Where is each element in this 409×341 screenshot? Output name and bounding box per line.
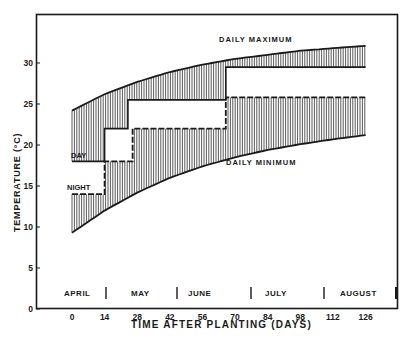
y-tick-label: 5: [28, 263, 33, 273]
y-axis-title: TEMPERATURE (°C): [12, 133, 22, 232]
y-tick-label: 30: [24, 58, 34, 68]
month-april: APRIL: [64, 289, 91, 298]
x-tick-label: 112: [326, 312, 340, 322]
annotation-night: NIGHT: [67, 183, 91, 192]
y-axis-ticks: 051015202530: [24, 58, 40, 314]
august-end-marker: [395, 287, 398, 299]
month-may: MAY: [131, 289, 150, 298]
x-axis-title: TIME AFTER PLANTING (DAYS): [131, 319, 312, 330]
x-tick-label: 0: [70, 312, 75, 322]
month-june: JUNE: [188, 289, 212, 298]
y-tick-label: 0: [28, 304, 33, 314]
y-tick-label: 20: [24, 140, 34, 150]
annotation-day: DAY: [71, 151, 86, 160]
temperature-chart: 051015202530 014284256708498112126 APRIL…: [0, 0, 409, 341]
x-tick-label: 126: [358, 312, 372, 322]
daily-minimum-curve: [72, 135, 366, 233]
y-tick-label: 10: [24, 222, 34, 232]
x-tick-label: 14: [100, 312, 110, 322]
annotation-daily-maximum: DAILY MAXIMUM: [219, 35, 292, 44]
month-august: AUGUST: [340, 289, 377, 298]
month-july: JULY: [265, 289, 287, 298]
min-hatching: [72, 97, 365, 232]
y-tick-label: 15: [24, 181, 34, 191]
annotation-daily-minimum: DAILY MINIMUM: [226, 158, 297, 167]
y-tick-label: 25: [24, 99, 34, 109]
